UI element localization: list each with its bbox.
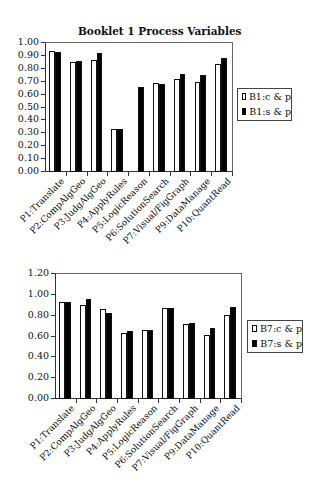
x-tick-mark	[138, 399, 139, 403]
bar-s-p	[65, 302, 71, 399]
bar-s-p	[189, 323, 195, 399]
swatch-white-icon	[252, 325, 257, 332]
bar-s-p	[210, 328, 216, 399]
x-tick-mark	[117, 399, 118, 403]
chart-booklet-7: 0.000.200.400.600.801.001.20 P1:Translat…	[0, 0, 319, 485]
x-tick-mark	[96, 399, 97, 403]
bar-s-p	[148, 330, 154, 399]
bar-s-p	[106, 313, 112, 399]
legend-item-s: B7:s & p	[248, 336, 302, 351]
y-tick-label: 0.40	[15, 351, 49, 361]
y-tick-mark	[51, 315, 55, 316]
legend-label: B7:s & p	[260, 338, 302, 349]
x-tick-mark	[241, 399, 242, 403]
legend-label: B7:c & p	[260, 323, 302, 334]
x-tick-mark	[220, 399, 221, 403]
y-tick-label: 0.60	[15, 331, 49, 341]
y-tick-mark	[51, 356, 55, 357]
y-tick-label: 0.80	[15, 310, 49, 320]
y-tick-mark	[51, 398, 55, 399]
y-tick-label: 0.00	[15, 393, 49, 403]
bar-s-p	[86, 299, 92, 399]
y-tick-mark	[51, 273, 55, 274]
bar-s-p	[168, 308, 174, 399]
y-tick-mark	[51, 294, 55, 295]
bar-s-p	[230, 307, 236, 399]
y-tick-mark	[51, 377, 55, 378]
bar-s-p	[127, 331, 133, 399]
y-tick-label: 1.20	[15, 268, 49, 278]
legend: B7:c & p B7:s & p	[247, 320, 303, 353]
x-tick-mark	[179, 399, 180, 403]
y-tick-mark	[51, 336, 55, 337]
y-tick-label: 0.20	[15, 372, 49, 382]
legend-item-c: B7:c & p	[248, 321, 302, 336]
x-tick-mark	[200, 399, 201, 403]
y-tick-label: 1.00	[15, 289, 49, 299]
swatch-black-icon	[252, 340, 257, 347]
x-tick-mark	[158, 399, 159, 403]
x-tick-mark	[76, 399, 77, 403]
